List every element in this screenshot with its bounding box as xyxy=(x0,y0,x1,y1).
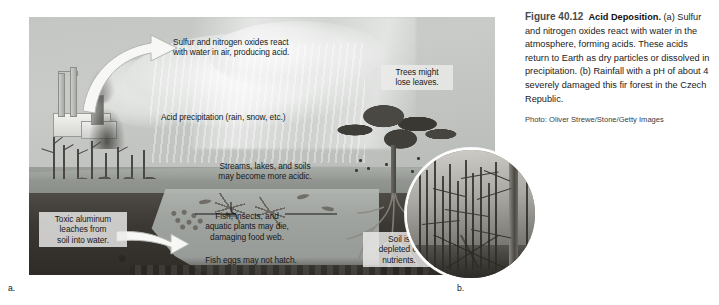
caption-text: Figure 40.12 Acid Deposition. (a) Sulfur… xyxy=(525,10,711,106)
label-acid-precipitation: Acid precipitation (rain, snow, etc.) xyxy=(157,110,347,124)
figure-title: Acid Deposition. xyxy=(588,12,660,22)
emissions-arrow xyxy=(73,31,183,117)
caption-body: (a) Sulfur and nitrogen oxides react wit… xyxy=(525,12,709,104)
photo-undergrowth xyxy=(407,235,535,268)
label-trees-lose-leaves: Trees might lose leaves. xyxy=(381,65,453,90)
label-sulfur-oxides: Sulfur and nitrogen oxides react with wa… xyxy=(169,35,345,60)
panel-letter-a: a. xyxy=(8,283,15,293)
shoreline-vegetation xyxy=(73,157,163,179)
label-fish-eggs: Fish eggs may not hatch. xyxy=(187,253,315,267)
label-toxic-aluminum: Toxic aluminum leaches from soil into wa… xyxy=(39,212,127,247)
photo-credit: Photo: Oliver Strewe/Stone/Getty Images xyxy=(525,115,711,125)
panel-letter-b: b. xyxy=(457,283,464,293)
label-streams-lakes-soils: Streams, lakes, and soils may become mor… xyxy=(195,159,335,184)
figure-page: Sulfur and nitrogen oxides react with wa… xyxy=(0,0,719,305)
label-fish-insects-plants: Fish, insects, and aquatic plants may di… xyxy=(187,209,307,244)
smokestack-icon xyxy=(58,73,65,117)
damaged-fir-forest-photo xyxy=(405,148,537,280)
figure-number: Figure 40.12 xyxy=(525,11,583,22)
figure-caption: Figure 40.12 Acid Deposition. (a) Sulfur… xyxy=(525,10,711,133)
